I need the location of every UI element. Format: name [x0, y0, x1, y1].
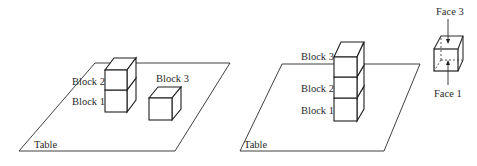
scene-goal: Block 3 Block 2 Block 1 Table: [240, 42, 420, 151]
label-block-2-left: Block 2: [72, 76, 105, 87]
scene-initial: Block 2 Block 1 Block 3 Table: [19, 58, 230, 151]
label-face-3: Face 3: [436, 6, 464, 17]
label-face-1: Face 1: [434, 88, 462, 99]
label-block-3-left: Block 3: [156, 73, 189, 84]
label-block-2-right: Block 2: [301, 83, 334, 94]
face-cube-diagram: Face 3 Face 1: [434, 6, 464, 99]
label-block-1-left: Block 1: [72, 96, 105, 107]
block-3-right: [334, 42, 364, 77]
blocks-world-diagram: Block 2 Block 1 Block 3 Table Block 3 Bl…: [0, 0, 477, 166]
label-table-right: Table: [244, 139, 268, 150]
label-table-left: Table: [34, 139, 58, 150]
label-block-3-right: Block 3: [301, 51, 334, 62]
arrowhead-face-3-icon: [446, 39, 450, 44]
label-block-1-right: Block 1: [301, 105, 334, 116]
arrowhead-face-1-icon: [446, 60, 450, 65]
block-3-left: [149, 87, 181, 120]
